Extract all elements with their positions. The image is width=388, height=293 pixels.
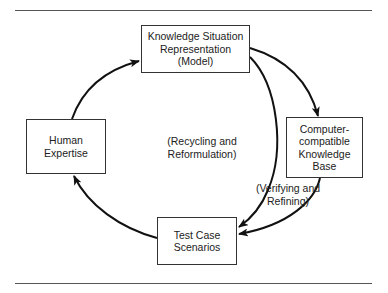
arrow-human-to-model [72,61,139,119]
node-human-expertise: Human Expertise [26,119,106,174]
annotation-recycling: (Recycling and Reformulation) [152,135,252,160]
annotation-verifying: (Verifying and Refining) [248,182,328,207]
arrow-tests-to-human [74,176,157,238]
arrow-model-to-kb [250,48,318,116]
node-test-case-scenarios: Test Case Scenarios [157,217,237,265]
node-computer-knowledge-base: Computer- compatible Knowledge Base [286,117,363,178]
node-knowledge-situation-model: Knowledge Situation Representation (Mode… [141,25,250,73]
